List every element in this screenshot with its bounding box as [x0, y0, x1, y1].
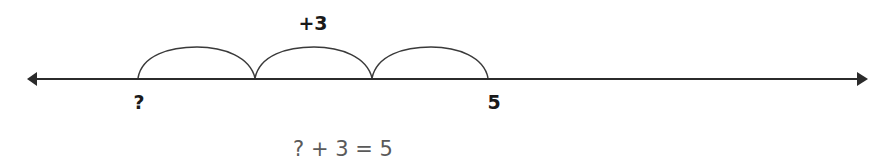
jump-arc-1 — [138, 47, 255, 78]
jump-label: +3 — [298, 12, 327, 34]
end-label: 5 — [487, 91, 500, 113]
jump-arc-3 — [372, 47, 488, 78]
equation-text: ? + 3 = 5 — [293, 137, 393, 161]
start-label: ? — [133, 91, 144, 113]
jump-arc-2 — [255, 47, 372, 78]
right-arrow-icon — [857, 72, 868, 86]
number-line-diagram: +3 ? 5 ? + 3 = 5 — [0, 0, 880, 165]
left-arrow-icon — [27, 72, 37, 86]
